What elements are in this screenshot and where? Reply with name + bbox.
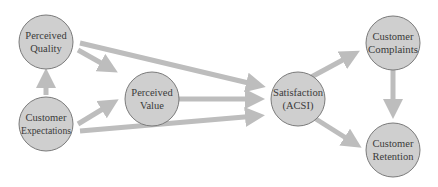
node-satisfaction: Satisfaction (ACSI): [271, 72, 325, 126]
node-circle: [366, 16, 420, 70]
node-circle: [19, 97, 73, 151]
edges-group: [46, 43, 393, 143]
node-customer-retention: Customer Retention: [366, 123, 420, 177]
node-customer-expectations: Customer Expectations: [19, 97, 73, 151]
node-perceived-value: Perceived Value: [125, 72, 179, 126]
node-circle: [125, 72, 179, 126]
node-label-line1: Satisfaction: [273, 87, 324, 98]
nodes-group: Perceived Quality Customer Expectations …: [19, 15, 420, 177]
node-label-line2: Complaints: [368, 44, 418, 55]
acsi-diagram: Perceived Quality Customer Expectations …: [0, 0, 438, 187]
node-label-line2: Value: [140, 100, 164, 111]
node-label-line2: Expectations: [21, 125, 71, 136]
node-label-line2: (ACSI): [283, 100, 314, 112]
node-perceived-quality: Perceived Quality: [19, 15, 73, 69]
node-circle: [271, 72, 325, 126]
node-customer-complaints: Customer Complaints: [366, 16, 420, 70]
node-label-line1: Perceived: [131, 87, 173, 98]
node-circle: [366, 123, 420, 177]
node-label-line2: Retention: [373, 151, 415, 162]
arrow-expectations-to-value: [78, 104, 111, 124]
node-label-line2: Quality: [30, 43, 62, 54]
node-label-line1: Perceived: [25, 30, 67, 41]
node-label-line1: Customer: [373, 138, 414, 149]
node-label-line1: Customer: [26, 112, 67, 123]
node-label-line1: Customer: [373, 31, 414, 42]
arrow-quality-to-value: [78, 50, 110, 68]
node-circle: [19, 15, 73, 69]
